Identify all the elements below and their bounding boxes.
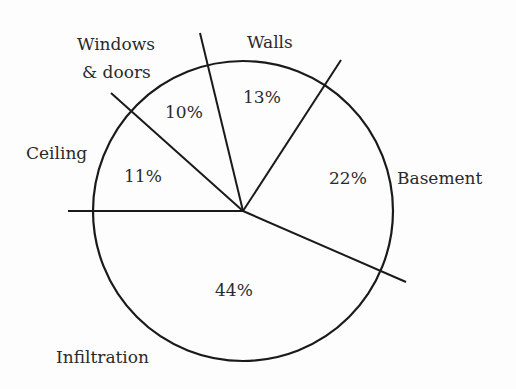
label-ceiling: Ceiling xyxy=(26,143,87,163)
pie-chart: Windows & doors 10% Walls 13% 22% Baseme… xyxy=(0,0,516,389)
pct-infiltration: 44% xyxy=(215,280,253,300)
pct-windows: 10% xyxy=(165,102,203,122)
label-infiltration: Infiltration xyxy=(56,347,149,367)
label-basement: Basement xyxy=(397,168,483,188)
pct-ceiling: 11% xyxy=(124,166,162,186)
divider-basement-walls xyxy=(243,60,341,211)
pct-basement: 22% xyxy=(329,168,367,188)
pct-walls: 13% xyxy=(243,87,281,107)
divider-walls-windows xyxy=(200,33,243,211)
label-walls: Walls xyxy=(247,32,293,52)
label-windows-line1: Windows xyxy=(77,34,155,54)
divider-infiltration-basement xyxy=(243,211,406,282)
label-windows-line2: & doors xyxy=(82,62,151,82)
